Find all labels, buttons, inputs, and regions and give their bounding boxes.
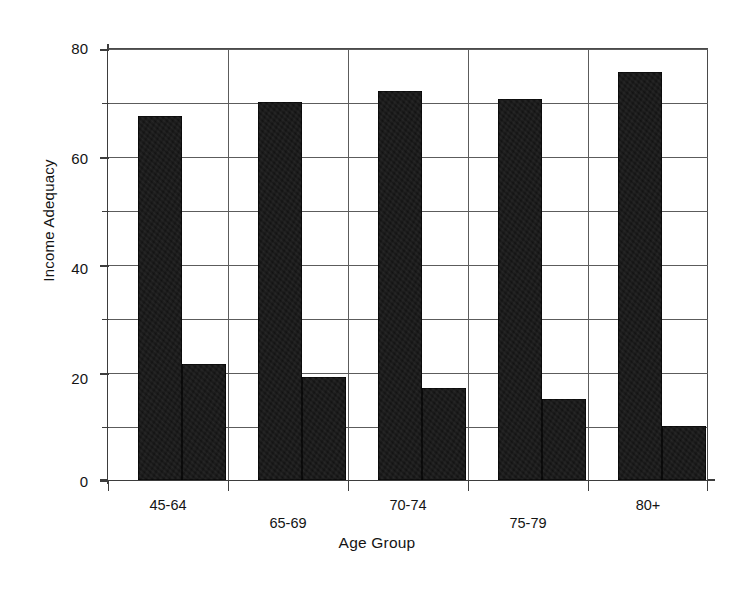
x-tick-label-80-plus: 80+ [588,498,708,513]
y-tick-label-0: 0 [48,474,88,489]
y-tick-minor-50 [102,211,109,212]
y-tick-major-40 [100,265,109,267]
y-tick-label-20: 20 [48,371,88,386]
y-tick-major-80 [100,49,109,51]
plot-area [108,48,708,480]
y-tick-minor-30 [102,319,109,320]
gridline-v-1 [228,49,229,481]
y-axis-title: Income Adequacy [40,111,57,331]
x-axis-title: Age Group [0,534,754,552]
x-tick-label-45-64: 45-64 [108,498,228,513]
x-tick-0 [108,480,109,491]
bar-80-plus-series-2 [662,426,706,480]
y-tick-major-20 [100,373,109,375]
bar-45-64-series-2 [182,364,226,480]
x-tick-4 [588,480,589,491]
x-tick-label-65-69: 65-69 [228,516,348,531]
x-tick-1 [228,480,229,491]
gridline-h-80 [108,49,708,50]
bar-70-74-series-1 [378,91,422,480]
bar-65-69-series-2 [302,377,346,480]
x-tick-5 [707,480,708,491]
y-tick-label-40: 40 [48,261,88,276]
x-tick-2 [348,480,349,491]
bar-70-74-series-2 [422,388,466,480]
bar-75-79-series-2 [542,399,586,480]
y-tick-label-60: 60 [48,151,88,166]
gridline-v-2 [348,49,349,481]
bar-65-69-series-1 [258,102,302,480]
chart-canvas: Income Adequacy 80 60 40 20 0 [0,0,754,592]
x-tick-3 [468,480,469,491]
x-tick-label-75-79: 75-79 [468,516,588,531]
y-tick-label-80: 80 [48,41,88,56]
gridline-v-3 [468,49,469,481]
y-tick-minor-70 [102,103,109,104]
bar-75-79-series-1 [498,99,542,480]
bar-45-64-series-1 [138,116,182,481]
y-tick-major-60 [100,157,109,159]
gridline-v-4 [588,49,589,481]
x-tick-label-70-74: 70-74 [348,498,468,513]
y-tick-minor-10 [102,427,109,428]
bar-80-plus-series-1 [618,72,662,480]
